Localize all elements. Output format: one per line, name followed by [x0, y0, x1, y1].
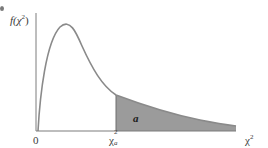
chi-square-figure: f(χ2) 0 χ2a χ2 a	[0, 0, 268, 148]
x-axis-label: χ2	[245, 134, 253, 146]
y-axis-label: f(χ2)	[10, 14, 29, 26]
y-label-f: f(	[10, 14, 17, 26]
y-label-close: )	[25, 14, 29, 26]
crit-superscript: 2	[114, 129, 118, 136]
crit-subscript: a	[114, 140, 118, 147]
critical-value-label: χ2a	[109, 134, 120, 146]
area-label-text: a	[133, 112, 139, 124]
area-label: a	[133, 113, 139, 124]
x-label-superscript: 2	[250, 133, 254, 141]
crit-scripts: 2a	[114, 134, 120, 144]
chi-square-plot	[0, 0, 268, 148]
origin-label: 0	[33, 135, 39, 146]
